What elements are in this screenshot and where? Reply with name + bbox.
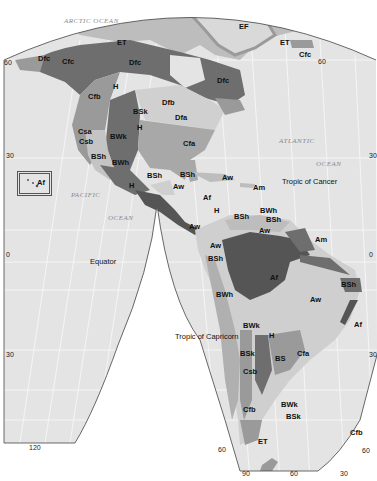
climate-label: Dfc <box>217 77 229 85</box>
hawaii-inset-box <box>19 173 50 194</box>
climate-label: H <box>129 182 134 190</box>
lat-60s-west: 60 <box>218 446 226 453</box>
lat-30n-east: 30 <box>369 152 377 159</box>
lon-60: 60 <box>290 470 298 477</box>
climate-label: Cfc <box>299 51 311 59</box>
tropic-of-cancer-label: Tropic of Cancer <box>282 178 337 186</box>
lat-0-east: 0 <box>369 251 373 258</box>
climate-label: Cfb <box>88 93 101 101</box>
climate-label: BSk <box>240 350 255 358</box>
ocean-label-atlantic: ATLANTIC <box>279 138 315 145</box>
climate-label: BS <box>275 355 285 363</box>
climate-label: H <box>137 124 142 132</box>
ocean-label-atlantic-ocean: OCEAN <box>316 161 341 168</box>
climate-label: Cfa <box>183 140 195 148</box>
ocean-label-pacific-ocean: OCEAN <box>108 215 133 222</box>
climate-label: Csb <box>79 138 93 146</box>
climate-label: Aw <box>222 174 233 182</box>
climate-label: Cfc <box>62 58 74 66</box>
climate-label: BSk <box>133 108 148 116</box>
lon-30: 30 <box>340 470 348 477</box>
lat-60s-east: 60 <box>362 447 370 454</box>
climate-label: Af <box>270 274 278 282</box>
climate-label: BSh <box>208 255 223 263</box>
climate-label: H <box>113 83 118 91</box>
climate-label: ET <box>117 39 127 47</box>
lon-90: 90 <box>242 470 250 477</box>
climate-label: BSh <box>341 281 356 289</box>
climate-label: Am <box>315 236 327 244</box>
climate-label: Dfc <box>129 59 141 67</box>
lat-30n-west: 30 <box>6 152 14 159</box>
climate-label: Am <box>253 184 265 192</box>
climate-label: BSk <box>286 413 301 421</box>
equator-label: Equator <box>90 258 116 266</box>
climate-label: Af <box>354 321 362 329</box>
climate-label: ET <box>280 39 290 47</box>
climate-label: BWk <box>110 133 127 141</box>
climate-label: ET <box>258 438 268 446</box>
climate-label: Aw <box>259 227 270 235</box>
climate-label: Dfa <box>175 114 187 122</box>
lat-30s-east: 30 <box>369 351 377 358</box>
tropic-of-capricorn-label: Tropic of Capricorn <box>175 333 239 341</box>
lat-30s-west: 30 <box>6 351 14 358</box>
climate-label: BWh <box>260 207 277 215</box>
climate-label: Csa <box>78 128 92 136</box>
climate-label: BSh <box>91 153 106 161</box>
climate-label: EF <box>239 23 249 31</box>
climate-label: Aw <box>210 242 221 250</box>
climate-label: Csb <box>243 368 257 376</box>
climate-label: Cfa <box>297 350 309 358</box>
climate-label: BWh <box>112 159 129 167</box>
ocean-label-pacific: PACIFIC <box>71 192 100 199</box>
ocean-label-arctic: ARCTIC OCEAN <box>64 18 119 25</box>
lat-0-west: 0 <box>6 251 10 258</box>
climate-label: Dfb <box>162 99 175 107</box>
climate-label: BSh <box>266 216 281 224</box>
climate-label: H <box>269 332 274 340</box>
climate-label: Aw <box>173 183 184 191</box>
climate-label: BSh <box>180 171 195 179</box>
climate-label: Dfc <box>38 55 50 63</box>
climate-label: BSh <box>234 213 249 221</box>
climate-label: Af <box>37 179 45 187</box>
climate-label: Af <box>203 194 211 202</box>
lat-60n-west: 60 <box>4 59 12 66</box>
climate-label: BWh <box>216 291 233 299</box>
lon-120: 120 <box>29 444 41 451</box>
climate-label: Cfb <box>243 406 256 414</box>
climate-label: BSh <box>147 172 162 180</box>
climate-label: H <box>214 207 219 215</box>
climate-label: BWk <box>281 401 298 409</box>
climate-label: Cfb <box>350 429 363 437</box>
climate-label: Aw <box>310 296 321 304</box>
climate-label: BWk <box>243 322 260 330</box>
climate-label: Aw <box>189 223 200 231</box>
lat-60n-east: 60 <box>318 58 326 65</box>
